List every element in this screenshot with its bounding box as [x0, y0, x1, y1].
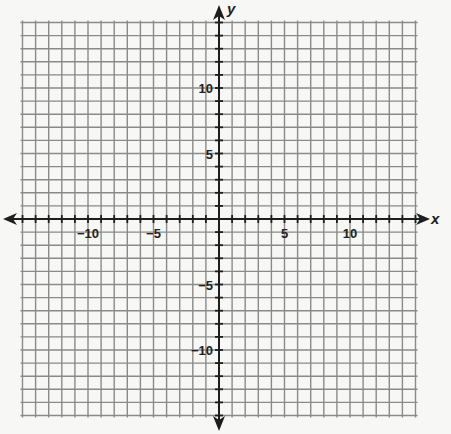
x-tick-label: −10 [77, 226, 99, 241]
x-tick-label: −5 [146, 226, 161, 241]
y-tick-label: −5 [198, 278, 213, 293]
x-tick-label: 10 [343, 226, 357, 241]
coordinate-grid-plot: −10−5510105−5−10 x y [0, 0, 451, 434]
y-tick-label: −10 [191, 343, 213, 358]
y-tick-label: 5 [206, 147, 213, 162]
y-tick-label: 10 [199, 81, 213, 96]
coordinate-plane: −10−5510105−5−10 x y [0, 0, 451, 434]
x-tick-label: 5 [281, 226, 288, 241]
x-axis-label: x [430, 210, 440, 227]
y-axis-label: y [226, 0, 236, 17]
axes [3, 5, 430, 431]
